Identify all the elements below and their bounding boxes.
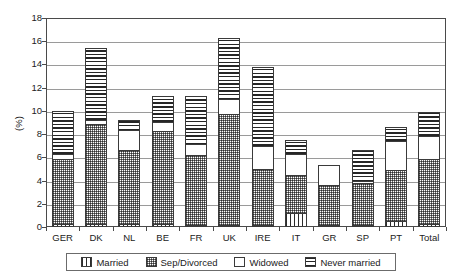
bar-slot [146,18,179,227]
x-axis-label-gr: GR [313,232,346,243]
bar-slot [46,18,79,227]
bar-segment-never-married [118,120,140,130]
bar-segment-widowed [152,122,174,131]
bar-segment-sep-divorced [318,185,340,225]
bar-slot [179,18,212,227]
bar-segment-widowed [318,165,340,185]
bar-segment-never-married [52,111,74,154]
legend-label: Married [96,257,128,268]
bar-segment-never-married [218,38,240,99]
bar-slot [313,18,346,227]
bar-segment-sep-divorced [385,170,407,221]
stacked-bar[interactable] [185,96,207,227]
bar-segment-married [285,213,307,227]
bar-segment-widowed [418,136,440,158]
bar-segment-never-married [285,140,307,154]
bar-slot [246,18,279,227]
bar-segment-sep-divorced [185,155,207,225]
x-axis-label-ire: IRE [246,232,279,243]
legend-swatch-icon [146,257,157,267]
x-axis-label-sp: SP [346,232,379,243]
bar-segment-never-married [385,127,407,141]
y-tick-label: 4 [0,175,42,187]
bar-segment-never-married [418,112,440,136]
bar-segment-sep-divorced [52,159,74,224]
stacked-bar[interactable] [52,111,74,227]
bar-segment-never-married [252,67,274,146]
x-axis-label-dk: DK [79,232,112,243]
x-axis-label-be: BE [146,232,179,243]
x-axis-label-uk: UK [213,232,246,243]
bar-segment-widowed [185,144,207,155]
bar-slot [279,18,312,227]
stacked-bar[interactable] [418,112,440,227]
stacked-bar[interactable] [385,127,407,227]
legend-item-never-married[interactable]: Never married [305,257,380,268]
y-tick-label: 0 [0,221,42,233]
y-tick-label: 16 [0,35,42,47]
x-tick-mark [46,227,47,231]
bar-segment-sep-divorced [152,131,174,224]
stacked-bar[interactable] [85,48,107,227]
bar-slot [379,18,412,227]
bar-segment-sep-divorced [85,124,107,224]
legend-swatch-icon [305,257,316,267]
chart-legend: MarriedSep/DivorcedWidowedNever married [66,253,396,271]
legend-item-sep-divorced[interactable]: Sep/Divorced [146,257,218,268]
bar-segment-sep-divorced [418,159,440,224]
legend-label: Never married [320,257,380,268]
x-axis-label-fr: FR [179,232,212,243]
bar-segment-sep-divorced [118,150,140,224]
y-tick-label: 14 [0,58,42,70]
stacked-bar[interactable] [352,150,374,227]
bar-segment-sep-divorced [285,175,307,213]
bar-segment-widowed [285,154,307,175]
stacked-bar[interactable] [318,165,340,227]
stacked-bar[interactable] [218,38,240,227]
stacked-bar[interactable] [252,67,274,227]
bar-slot [113,18,146,227]
legend-swatch-icon [234,257,245,267]
x-tick-mark [179,227,180,231]
bar-segment-never-married [152,96,174,122]
x-tick-mark [313,227,314,231]
bar-slot [413,18,446,227]
x-tick-mark [246,227,247,231]
legend-item-married[interactable]: Married [81,257,128,268]
x-axis: GERDKNLBEFRUKIREITGRSPPTTotal [46,227,446,249]
x-tick-mark [346,227,347,231]
x-tick-mark [146,227,147,231]
y-tick-label: 18 [0,12,42,24]
bar-segment-widowed [385,141,407,170]
x-axis-label-pt: PT [379,232,412,243]
bar-segment-sep-divorced [252,169,274,225]
x-tick-mark [446,227,447,231]
x-axis-label-ger: GER [46,232,79,243]
y-tick-label: 12 [0,82,42,94]
legend-label: Widowed [249,257,288,268]
bar-segment-never-married [352,150,374,181]
bar-segment-widowed [252,146,274,169]
bar-segment-never-married [185,96,207,144]
y-axis-label: (%) [13,104,24,144]
x-tick-mark [213,227,214,231]
legend-swatch-icon [81,257,92,267]
y-tick-label: 2 [0,198,42,210]
y-tick-label: 6 [0,151,42,163]
bar-slot [213,18,246,227]
stacked-bar[interactable] [118,120,140,227]
stacked-bar[interactable] [285,140,307,227]
x-tick-mark [113,227,114,231]
bar-segment-never-married [85,48,107,120]
bar-slot [79,18,112,227]
chart-root: 181614121086420 (%) GERDKNLBEFRUKIREITGR… [0,0,458,277]
x-tick-mark [79,227,80,231]
stacked-bar[interactable] [152,96,174,227]
x-tick-mark [379,227,380,231]
bar-slot [346,18,379,227]
x-axis-label-it: IT [279,232,312,243]
x-tick-mark [279,227,280,231]
bar-segment-sep-divorced [352,183,374,225]
bar-segment-widowed [218,99,240,114]
legend-item-widowed[interactable]: Widowed [234,257,288,268]
